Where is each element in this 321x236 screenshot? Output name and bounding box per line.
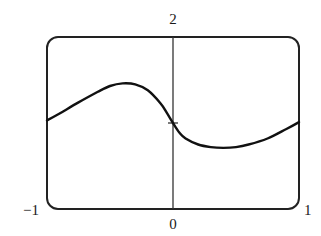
x-origin-label: 0	[169, 216, 177, 232]
function-graph: 2 −1 1 0	[0, 0, 321, 236]
y-max-label: 2	[169, 11, 177, 27]
x-min-label: −1	[23, 202, 39, 218]
x-max-label: 1	[304, 202, 312, 218]
